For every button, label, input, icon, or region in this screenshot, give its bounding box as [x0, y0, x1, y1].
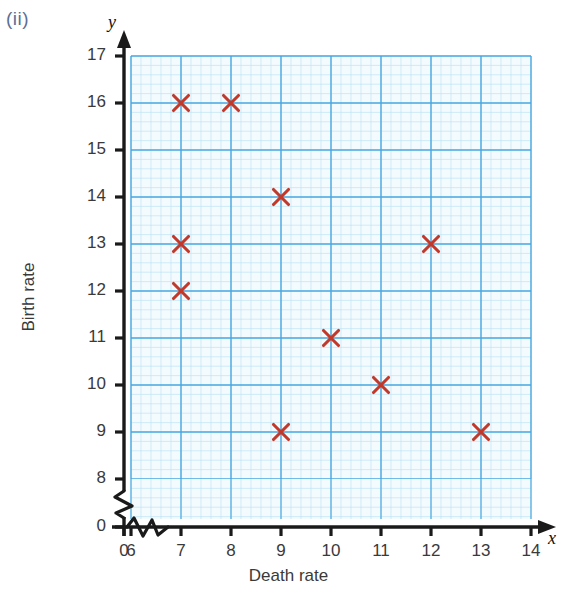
- x-tick-label: 14: [516, 541, 546, 561]
- y-tick-label: 17: [76, 45, 106, 65]
- y-tick-label: 13: [76, 233, 106, 253]
- y-tick-label: 10: [76, 374, 106, 394]
- y-tick-label: 0: [76, 516, 106, 536]
- y-axis-letter: y: [108, 12, 116, 33]
- x-tick-label: 12: [416, 541, 446, 561]
- x-axis-letter: x: [548, 528, 556, 549]
- x-tick-label: 7: [166, 541, 196, 561]
- y-tick-label: 14: [76, 186, 106, 206]
- grid: [131, 56, 531, 479]
- x-tick-label: 13: [466, 541, 496, 561]
- x-tick-label: 9: [266, 541, 296, 561]
- y-tick-label: 15: [76, 139, 106, 159]
- x-tick-label: 8: [216, 541, 246, 561]
- y-axis-title: Birth rate: [19, 227, 39, 367]
- y-tick-label: 9: [76, 421, 106, 441]
- y-tick-label: 8: [76, 468, 106, 488]
- grid-below-break: [131, 479, 531, 519]
- x-tick-label: 11: [366, 541, 396, 561]
- y-tick-label: 16: [76, 92, 106, 112]
- x-tick-label: 6: [116, 541, 146, 561]
- y-tick-label: 11: [76, 327, 106, 347]
- x-tick-label: 10: [316, 541, 346, 561]
- x-axis-title: Death rate: [0, 566, 577, 586]
- y-tick-label: 12: [76, 280, 106, 300]
